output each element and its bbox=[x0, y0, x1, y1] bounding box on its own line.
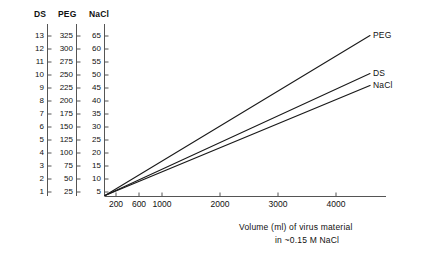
curve-label-nacl: NaCl bbox=[373, 81, 393, 90]
peg-tick-label: 100 bbox=[48, 149, 73, 157]
x-axis-title-line1: Volume (ml) of virus material bbox=[239, 222, 353, 233]
nacl-tick-label: 10 bbox=[78, 175, 101, 183]
curve-label-peg: PEG bbox=[373, 31, 392, 40]
x-tick-label: 4000 bbox=[319, 200, 353, 209]
nacl-tick-label: 55 bbox=[78, 58, 101, 66]
peg-tick-label: 25 bbox=[48, 188, 73, 196]
ds-tick-label: 12 bbox=[18, 45, 44, 53]
data-line-nacl bbox=[105, 86, 370, 196]
ds-tick-label: 13 bbox=[18, 32, 44, 40]
peg-tick-label: 325 bbox=[48, 32, 73, 40]
nacl-tick-label: 40 bbox=[78, 97, 101, 105]
peg-tick-label: 175 bbox=[48, 110, 73, 118]
ds-tick-label: 3 bbox=[18, 162, 44, 170]
peg-axis-header: PEG bbox=[58, 9, 77, 19]
ds-tick-label: 2 bbox=[18, 175, 44, 183]
curve-label-ds: DS bbox=[373, 69, 385, 78]
x-axis-ticks bbox=[116, 193, 336, 197]
x-tick-label: 3000 bbox=[261, 200, 295, 209]
nacl-tick-label: 65 bbox=[78, 32, 101, 40]
nacl-tick-label: 50 bbox=[78, 71, 101, 79]
peg-tick-label: 200 bbox=[48, 97, 73, 105]
nacl-tick-label: 45 bbox=[78, 84, 101, 92]
ds-tick-label: 5 bbox=[18, 136, 44, 144]
nacl-tick-label: 20 bbox=[78, 149, 101, 157]
nacl-tick-label: 25 bbox=[78, 136, 101, 144]
nacl-tick-label: 15 bbox=[78, 162, 101, 170]
nacl-tick-label: 35 bbox=[78, 110, 101, 118]
peg-tick-label: 250 bbox=[48, 71, 73, 79]
nacl-tick-label: 30 bbox=[78, 123, 101, 131]
ds-tick-label: 4 bbox=[18, 149, 44, 157]
peg-tick-label: 75 bbox=[48, 162, 73, 170]
nacl-tick-label: 5 bbox=[78, 188, 101, 196]
ds-tick-label: 9 bbox=[18, 84, 44, 92]
nacl-axis-header: NaCl bbox=[89, 9, 109, 19]
x-tick-label: 2000 bbox=[203, 200, 237, 209]
ds-tick-label: 6 bbox=[18, 123, 44, 131]
data-line-ds bbox=[105, 74, 370, 196]
peg-tick-label: 150 bbox=[48, 123, 73, 131]
chart-figure: DS PEG NaCl 13 12 11 10 9 8 7 6 5 4 3 2 … bbox=[0, 0, 428, 256]
ds-tick-label: 8 bbox=[18, 97, 44, 105]
nacl-axis-ticks bbox=[105, 36, 109, 192]
peg-tick-label: 125 bbox=[48, 136, 73, 144]
peg-tick-label: 275 bbox=[48, 58, 73, 66]
x-axis-title-line2: in ~0.15 M NaCl bbox=[275, 235, 339, 246]
ds-tick-label: 7 bbox=[18, 110, 44, 118]
peg-tick-label: 50 bbox=[48, 175, 73, 183]
ds-axis-header: DS bbox=[34, 9, 46, 19]
peg-tick-label: 300 bbox=[48, 45, 73, 53]
nacl-tick-label: 60 bbox=[78, 45, 101, 53]
ds-tick-label: 11 bbox=[18, 58, 44, 66]
peg-tick-label: 225 bbox=[48, 84, 73, 92]
ds-tick-label: 10 bbox=[18, 71, 44, 79]
data-line-peg bbox=[105, 36, 370, 196]
ds-tick-label: 1 bbox=[18, 188, 44, 196]
x-tick-label: 1000 bbox=[145, 200, 179, 209]
